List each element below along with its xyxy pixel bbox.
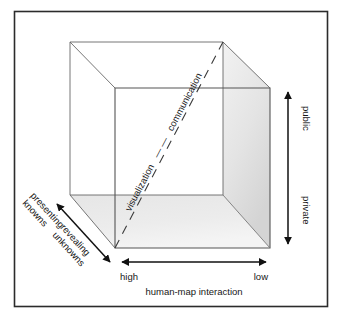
vertical-axis-tick-private: private xyxy=(301,196,312,225)
figure-root: visualization — — communication high low… xyxy=(0,0,343,318)
vertical-axis-tick-public: public xyxy=(301,106,312,131)
vertical-axis-tick-public-group: public xyxy=(301,106,312,131)
horizontal-axis-tick-high: high xyxy=(120,271,138,282)
horizontal-axis-label: human-map interaction xyxy=(145,286,242,297)
vertical-axis-tick-private-group: private xyxy=(301,196,312,225)
diagonal-label-text: visualization — — communication xyxy=(122,71,204,213)
diagonal-axis-label-group: visualization — — communication xyxy=(122,71,204,213)
horizontal-axis-tick-low: low xyxy=(254,271,268,282)
depth-axis-tick-near-group: revealing unknowns xyxy=(50,222,95,269)
cube-diagram-svg: visualization — — communication high low… xyxy=(0,0,343,318)
